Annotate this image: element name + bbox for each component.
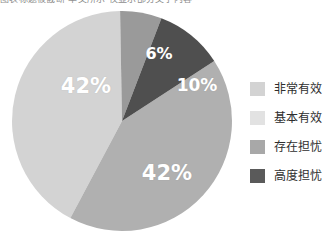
pie-chart: 42% 42% 6% 10% xyxy=(11,10,233,232)
legend-swatch-some-concern xyxy=(250,140,265,154)
legend-swatch-very-effective xyxy=(250,82,265,96)
legend-item-high-concern[interactable]: 高度担忧 xyxy=(250,161,335,190)
pie-slice-label-basically-effective: 42% xyxy=(142,161,192,185)
clipped-caption-text: 图表标题被截断 本文所示 仅显示部分文字内容 xyxy=(0,0,225,5)
legend-item-some-concern[interactable]: 存在担忧 xyxy=(250,132,335,161)
pie-chart-svg xyxy=(11,10,233,232)
legend-item-very-effective[interactable]: 非常有效 xyxy=(250,74,335,103)
pie-slice-group xyxy=(12,11,232,231)
pie-slice-label-very-effective: 42% xyxy=(61,74,111,98)
legend-label-high-concern: 高度担忧 xyxy=(274,169,322,183)
legend-label-very-effective: 非常有效 xyxy=(274,82,322,96)
legend-label-basically-effective: 基本有效 xyxy=(274,111,322,125)
pie-slice-label-high-concern: 10% xyxy=(177,75,218,95)
legend-label-some-concern: 存在担忧 xyxy=(274,140,322,154)
legend-swatch-basically-effective xyxy=(250,111,265,125)
legend-swatch-high-concern xyxy=(250,169,265,183)
chart-canvas: 图表标题被截断 本文所示 仅显示部分文字内容 42% 42% 6% 10% 非常… xyxy=(0,0,335,240)
chart-legend: 非常有效 基本有效 存在担忧 高度担忧 xyxy=(250,74,335,190)
pie-slice-label-some-concern: 6% xyxy=(145,44,172,63)
legend-item-basically-effective[interactable]: 基本有效 xyxy=(250,103,335,132)
